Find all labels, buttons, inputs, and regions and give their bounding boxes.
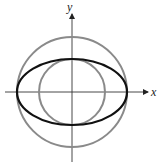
ellipse-circles-diagram: x y [0,0,165,167]
x-axis-label: x [150,85,157,99]
y-axis-label: y [66,0,73,14]
